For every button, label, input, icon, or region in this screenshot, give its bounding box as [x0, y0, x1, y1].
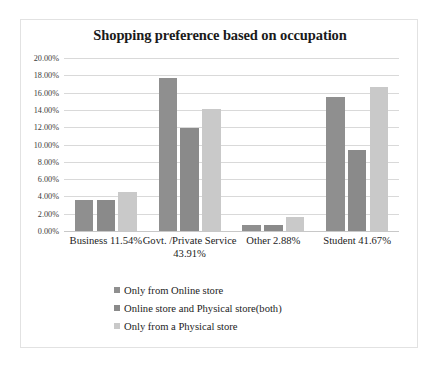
bar — [97, 200, 116, 231]
y-axis-tick-label: 16.00% — [34, 88, 59, 97]
y-axis: 0.00%2.00%4.00%6.00%8.00%10.00%12.00%14.… — [21, 58, 62, 231]
x-axis-tick-label: Student 41.67% — [309, 234, 405, 247]
y-axis-tick-label: 20.00% — [34, 54, 59, 63]
legend-label: Only from a Physical store — [124, 321, 238, 332]
x-axis-category-labels: Business 11.54%Govt. /Private Service 43… — [64, 234, 399, 278]
chart-legend: Only from Online storeOnline store and P… — [21, 282, 419, 336]
legend-item[interactable]: Only from a Physical store — [21, 318, 419, 334]
y-axis-tick-label: 8.00% — [38, 157, 59, 166]
x-axis-tick-label: Govt. /Private Service 43.91% — [142, 234, 238, 260]
y-axis-tick-label: 10.00% — [34, 140, 59, 149]
bar — [242, 225, 261, 231]
y-axis-tick-label: 0.00% — [38, 227, 59, 236]
bar — [75, 200, 94, 231]
bar — [118, 192, 137, 231]
bar — [202, 109, 221, 231]
gridline-0.00 — [64, 231, 399, 232]
x-axis-tick-label: Business 11.54% — [58, 234, 154, 247]
chart-title: Shopping preference based on occupation — [21, 27, 419, 44]
legend-label: Online store and Physical store(both) — [124, 303, 282, 314]
legend-item[interactable]: Online store and Physical store(both) — [21, 300, 419, 316]
x-axis-tick-label: Other 2.88% — [226, 234, 322, 247]
bars-layer — [64, 58, 399, 231]
y-axis-tick-label: 4.00% — [38, 192, 59, 201]
bar — [348, 150, 367, 231]
y-axis-tick-label: 2.00% — [38, 209, 59, 218]
bar — [286, 217, 305, 231]
bar — [326, 97, 345, 231]
y-axis-tick-label: 14.00% — [34, 105, 59, 114]
y-axis-tick-label: 12.00% — [34, 123, 59, 132]
bar — [370, 87, 389, 231]
bar — [264, 225, 283, 231]
legend-swatch-icon — [114, 287, 120, 293]
y-axis-tick-label: 18.00% — [34, 71, 59, 80]
legend-item[interactable]: Only from Online store — [21, 282, 419, 298]
legend-label: Only from Online store — [124, 285, 223, 296]
bar — [180, 128, 199, 231]
legend-swatch-icon — [114, 323, 120, 329]
y-axis-tick-label: 6.00% — [38, 175, 59, 184]
chart-container: Shopping preference based on occupation … — [20, 19, 418, 348]
bar — [159, 78, 178, 231]
legend-swatch-icon — [114, 305, 120, 311]
